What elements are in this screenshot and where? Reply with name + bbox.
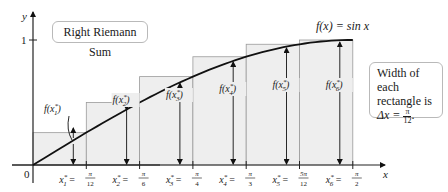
delta-prefix: Δx = (377, 108, 400, 122)
x-axis-label: x (382, 168, 388, 180)
width-note-box: Width of each rectangle is Δx = π 12 . (369, 62, 443, 118)
x-label-6: x*6 = (325, 173, 342, 188)
x-label-5: x*5 = (272, 173, 289, 188)
x-value-num-1: π (89, 170, 93, 178)
x-label-1: x*1 = (58, 173, 75, 188)
width-line-2: rectangle is (377, 94, 442, 108)
title-box: Right Riemann Sum (52, 21, 148, 43)
x-tick-labels: x*1 =π12x*2 =π6x*3 =π4x*4 =π3x*5 =5π12x*… (58, 170, 362, 188)
riemann-rectangles (33, 40, 353, 165)
x-value-num-3: π (195, 170, 199, 178)
x-value-den-6: 2 (355, 180, 359, 188)
x-value-num-5: 5π (300, 170, 308, 178)
x-value-num-6: π (355, 170, 359, 178)
function-label: f(x) = sin x (316, 19, 370, 33)
x-value-den-4: 3 (248, 180, 252, 188)
width-line-3: Δx = π 12 . (377, 108, 442, 125)
x-value-den-1: 12 (87, 180, 95, 188)
y-axis-label: y (21, 10, 27, 22)
rectangle-5 (246, 44, 299, 165)
x-value-den-3: 4 (195, 180, 199, 188)
y-tick-label: 1 (21, 34, 27, 46)
width-line-1: Width of each (377, 66, 442, 94)
x-value-den-5: 12 (300, 180, 308, 188)
x-label-2: x*2 = (112, 173, 129, 188)
x-value-num-2: π (142, 170, 146, 178)
rectangle-2 (86, 103, 139, 166)
x-value-num-4: π (248, 170, 252, 178)
x-value-den-2: 6 (142, 180, 146, 188)
origin-label: 0 (24, 168, 30, 180)
f-label-1: f(x*1) (44, 102, 62, 117)
x-label-4: x*4 = (218, 173, 235, 188)
rectangle-6 (300, 40, 353, 165)
x-label-3: x*3 = (165, 173, 182, 188)
